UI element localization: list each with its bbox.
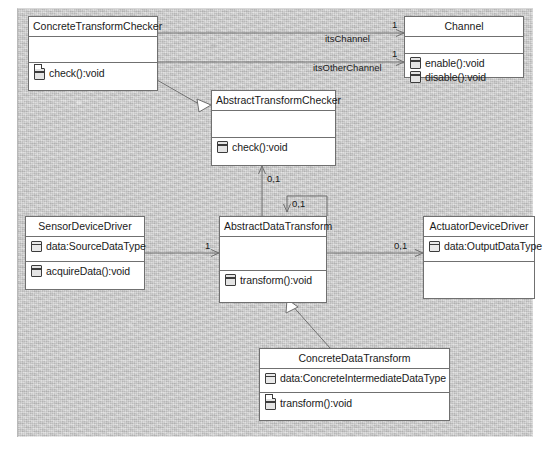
attribute-icon — [429, 241, 440, 252]
class-name: ActuatorDeviceDriver — [424, 217, 534, 236]
class-name: AbstractDataTransform — [220, 217, 326, 236]
label-otherchannel-role: itsOtherChannel — [313, 62, 382, 73]
class-name: ConcreteDataTransform — [260, 349, 449, 368]
attribute-icon — [265, 373, 276, 384]
class-name: ConcreteTransformChecker — [29, 17, 157, 36]
attribute-icon — [31, 241, 42, 252]
attributes-compartment: data:SourceDataType — [26, 237, 144, 254]
class-channel[interactable]: Channel enable():void disable():void — [404, 16, 524, 78]
operations-compartment: transform():void — [220, 271, 326, 288]
label-self-multiplicity: 0,1 — [292, 198, 305, 209]
operations-compartment: check():void — [29, 63, 157, 82]
operation-row[interactable]: acquireData():void — [26, 262, 144, 279]
operation-icon — [225, 274, 236, 286]
attributes-compartment: data:ConcreteIntermediateDataType — [260, 369, 449, 386]
operation-row[interactable]: transform():void — [220, 271, 326, 288]
attributes-compartment — [212, 111, 335, 137]
attributes-compartment — [405, 37, 523, 53]
diagram-root: 1 itsChannel 1 itsOtherChannel 0,1 0,1 1… — [0, 0, 550, 451]
operation-label: disable():void — [425, 71, 486, 83]
operations-compartment: transform():void — [260, 393, 449, 412]
attribute-row[interactable]: data:SourceDataType — [26, 237, 144, 254]
label-checker-multiplicity: 0,1 — [267, 173, 280, 184]
attribute-label: data:ConcreteIntermediateDataType — [280, 372, 446, 384]
operation-label: check():void — [49, 67, 104, 79]
edge-generalization-transform — [290, 303, 330, 348]
attribute-label: data:SourceDataType — [46, 240, 146, 252]
operation-row[interactable]: disable():void — [405, 71, 523, 85]
class-name: AbstractTransformChecker — [212, 91, 335, 110]
operation-label: check():void — [232, 141, 287, 153]
operation-row[interactable]: transform():void — [260, 393, 449, 412]
operation-row[interactable]: check():void — [212, 138, 335, 155]
label-channel-role: itsChannel — [325, 33, 370, 44]
class-name: Channel — [405, 17, 523, 36]
operation-label: transform():void — [280, 397, 352, 409]
attributes-compartment — [29, 37, 157, 62]
operation-label: transform():void — [240, 274, 312, 286]
class-name: SensorDeviceDriver — [26, 217, 144, 236]
label-sensor-multiplicity: 1 — [205, 240, 210, 251]
operation-icon — [217, 141, 228, 153]
operation-overridden-icon — [34, 68, 45, 80]
operation-overridden-icon — [265, 398, 276, 410]
label-otherchannel-multiplicity: 1 — [392, 48, 397, 59]
class-actuatordevicedriver[interactable]: ActuatorDeviceDriver data:OutputDataType — [423, 216, 535, 299]
attributes-compartment: data:OutputDataType — [424, 237, 534, 254]
class-abstractdatatransform[interactable]: AbstractDataTransform transform():void — [219, 216, 327, 303]
operations-compartment — [424, 262, 534, 292]
edge-generalization-checker — [157, 80, 199, 104]
operation-row[interactable]: enable():void — [405, 54, 523, 71]
class-concretetransformchecker[interactable]: ConcreteTransformChecker check():void — [28, 16, 158, 91]
attribute-label: data:OutputDataType — [444, 240, 542, 252]
operations-compartment: check():void — [212, 138, 335, 155]
label-actuator-multiplicity: 0,1 — [394, 240, 407, 251]
operation-row[interactable]: check():void — [29, 63, 157, 82]
operations-compartment: enable():void disable():void — [405, 54, 523, 85]
operation-label: enable():void — [425, 57, 484, 69]
attribute-row[interactable]: data:ConcreteIntermediateDataType — [260, 369, 449, 386]
class-sensordevicedriver[interactable]: SensorDeviceDriver data:SourceDataType a… — [25, 216, 145, 290]
operation-icon — [410, 71, 421, 83]
class-concretedatatransform[interactable]: ConcreteDataTransform data:ConcreteInter… — [259, 348, 450, 421]
attribute-row[interactable]: data:OutputDataType — [424, 237, 534, 254]
label-channel-multiplicity: 1 — [392, 19, 397, 30]
operation-label: acquireData():void — [46, 265, 130, 277]
operation-icon — [410, 57, 421, 69]
attributes-compartment — [220, 237, 326, 270]
operations-compartment: acquireData():void — [26, 262, 144, 279]
operation-icon — [31, 265, 42, 277]
class-abstracttransformchecker[interactable]: AbstractTransformChecker check():void — [211, 90, 336, 166]
